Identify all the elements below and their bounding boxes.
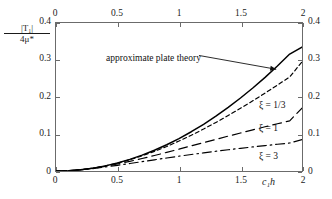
x-tick-label-top-0: 0 xyxy=(53,9,58,19)
x-tick-label-bottom-0: 0 xyxy=(53,176,58,186)
y-tick-label-right-0: 0 xyxy=(308,167,313,177)
annotation-leader-line xyxy=(199,55,276,69)
y-axis-label-denominator: 4μ* xyxy=(4,34,50,44)
y-tick-right-0 xyxy=(298,172,302,173)
curve-label-xi-one: ξ = 1 xyxy=(259,124,278,134)
y-tick-label-left-3: 0.3 xyxy=(30,54,51,64)
y-tick-label-right-1: 0.1 xyxy=(308,129,320,139)
plot-area xyxy=(55,22,303,172)
curve-label-xi-three: ξ = 3 xyxy=(259,152,278,162)
y-tick-label-left-4: 0.4 xyxy=(30,17,51,27)
curve-label-xi-one-third: ξ = 1/3 xyxy=(259,101,285,111)
x-tick-label-top-3: 1.5 xyxy=(235,9,247,19)
x-tick-bottom-4 xyxy=(303,167,304,171)
curves-svg xyxy=(56,23,302,171)
y-tick-label-left-2: 0.2 xyxy=(30,92,51,102)
curve--1 xyxy=(56,108,302,171)
x-tick-label-bottom-2: 1 xyxy=(177,176,182,186)
x-tick-label-top-2: 1 xyxy=(177,9,182,19)
y-tick-label-right-3: 0.3 xyxy=(308,54,320,64)
annotation-approximate-plate-theory: approximate plate theory xyxy=(106,54,201,64)
x-tick-label-bottom-3: 1.5 xyxy=(235,176,247,186)
y-tick-label-right-2: 0.2 xyxy=(308,92,320,102)
x-tick-label-top-1: 0.5 xyxy=(111,9,123,19)
x-tick-label-top-4: 2 xyxy=(301,9,306,19)
x-axis-label: c₁h xyxy=(262,176,275,187)
x-tick-label-bottom-4: 2 xyxy=(301,176,306,186)
x-tick-label-bottom-1: 0.5 xyxy=(111,176,123,186)
figure-chart: |T₁| 4μ* c₁h 0 0.5 1 1.5 2 0 0.5 1 1.5 2… xyxy=(0,0,332,199)
y-tick-label-right-4: 0.4 xyxy=(308,17,320,27)
y-tick-label-left-1: 0.1 xyxy=(30,129,51,139)
y-tick-label-left-0: 0 xyxy=(30,167,51,177)
x-tick-top-4 xyxy=(303,23,304,27)
y-tick-left-0 xyxy=(56,172,60,173)
